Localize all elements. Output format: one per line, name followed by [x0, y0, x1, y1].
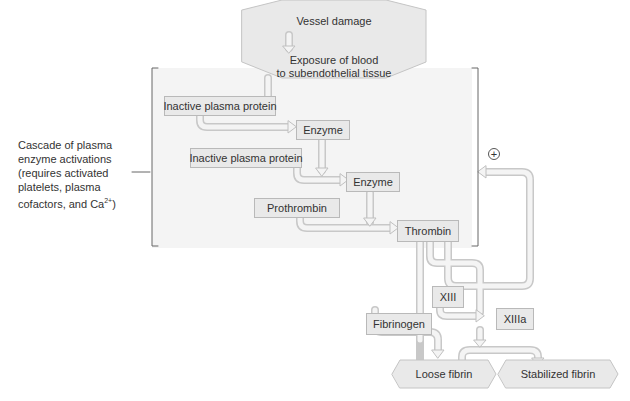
fibrinogen: Fibrinogen: [366, 313, 432, 335]
stabilized-fibrin: Stabilized fibrin: [498, 367, 618, 381]
cascade-line-1: Cascade of plasma: [18, 138, 116, 152]
prothrombin: Prothrombin: [254, 198, 340, 218]
exposure-label-1: Exposure of blood: [242, 53, 426, 67]
loose-fibrin: Loose fibrin: [392, 367, 496, 381]
positive-feedback-icon: +: [488, 148, 500, 160]
factor-xiii: XIII: [432, 286, 464, 308]
cascade-line-4: platelets, plasma: [18, 180, 116, 194]
cascade-line-2: enzyme activations: [18, 152, 116, 166]
cascade-line-3: (requires activated: [18, 166, 116, 180]
thrombin: Thrombin: [397, 220, 459, 242]
enzyme-1: Enzyme: [296, 120, 350, 140]
inactive-plasma-protein-2: Inactive plasma protein: [190, 148, 302, 168]
vessel-damage-label: Vessel damage: [242, 14, 426, 28]
inactive-plasma-protein-1: Inactive plasma protein: [164, 96, 276, 116]
factor-xiiia: XIIIa: [496, 308, 534, 330]
exposure-label-2: to subendothelial tissue: [242, 66, 426, 80]
cascade-description: Cascade of plasma enzyme activations (re…: [18, 138, 116, 211]
cascade-line-5: cofactors, and Ca2+): [18, 194, 116, 211]
enzyme-2: Enzyme: [346, 172, 400, 192]
